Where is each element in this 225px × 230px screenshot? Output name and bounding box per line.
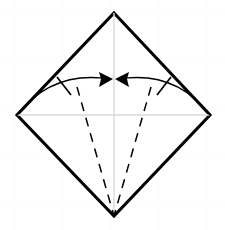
diagram-canvas xyxy=(0,0,225,230)
origami-diagram xyxy=(0,0,225,230)
center-guide-axes xyxy=(17,13,210,216)
